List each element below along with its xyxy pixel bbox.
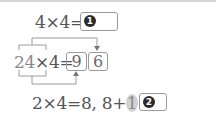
marker-2-icon: 2 xyxy=(143,96,155,108)
multiplicand-ones: 4 xyxy=(25,52,36,72)
carry-digit-highlight: 1 xyxy=(126,94,138,112)
result-box-tens: 9 xyxy=(66,52,87,71)
equation-row-3: 2×4=8, 8+1= xyxy=(32,94,152,112)
result-ones-digit: 6 xyxy=(93,52,103,71)
equation-3-text: 2×4=8, 8+ xyxy=(32,93,126,113)
multiplicand-tens: 2 xyxy=(14,52,25,72)
answer-box-2[interactable]: 2 xyxy=(139,93,167,111)
result-box-ones: 6 xyxy=(88,52,108,71)
diagram-equation: 24×4= xyxy=(14,53,73,71)
result-tens-digit: 9 xyxy=(71,52,81,71)
